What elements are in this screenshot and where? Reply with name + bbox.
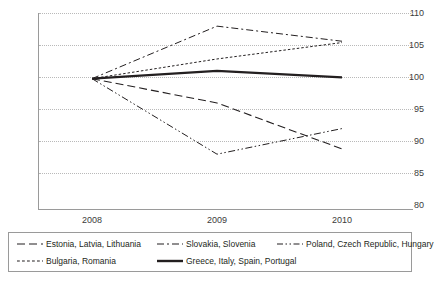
legend-label: Slovakia, Slovenia <box>186 239 255 249</box>
legend-label: Greece, Italy, Spain, Portugal <box>186 256 296 266</box>
series-lines <box>38 13 413 210</box>
series-line-4 <box>92 71 342 79</box>
legend-swatch-dash-dot <box>157 239 183 249</box>
legend-label: Poland, Czech Republic, Hungary <box>306 239 434 249</box>
series-line-3 <box>92 43 342 79</box>
legend-item-bulgaria-romania: Bulgaria, Romania <box>17 253 116 269</box>
legend-swatch-dash-dot-dot <box>277 239 303 249</box>
legend-item-estonia-latvia-lithuania: Estonia, Latvia, Lithuania <box>17 236 141 252</box>
legend-row-2: Bulgaria, Romania Greece, Italy, Spain, … <box>9 253 411 269</box>
legend-label: Bulgaria, Romania <box>46 256 116 266</box>
x-tick-label-2008: 2008 <box>62 216 122 225</box>
series-line-0 <box>92 79 342 149</box>
legend-row-1: Estonia, Latvia, Lithuania Slovakia, Slo… <box>9 236 411 252</box>
legend-item-poland-czech-hungary: Poland, Czech Republic, Hungary <box>277 236 434 252</box>
plot-area <box>38 13 413 210</box>
legend-swatch-long-dash <box>17 239 43 249</box>
legend-swatch-solid-thick <box>157 256 183 266</box>
legend-label: Estonia, Latvia, Lithuania <box>46 239 141 249</box>
legend-swatch-dotted <box>17 256 43 266</box>
series-line-2 <box>92 79 342 155</box>
x-tick-label-2009: 2009 <box>187 216 247 225</box>
chart-legend: Estonia, Latvia, Lithuania Slovakia, Slo… <box>8 232 412 272</box>
legend-item-slovakia-slovenia: Slovakia, Slovenia <box>157 236 255 252</box>
legend-item-greece-italy-spain-portugal: Greece, Italy, Spain, Portugal <box>157 253 296 269</box>
x-tick-label-2010: 2010 <box>312 216 372 225</box>
